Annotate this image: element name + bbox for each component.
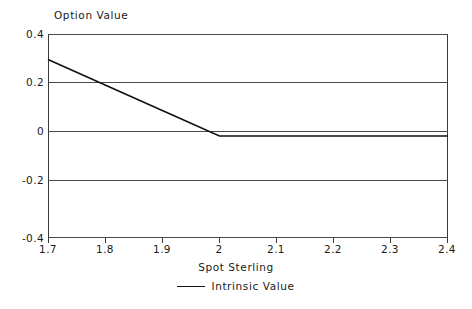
legend-line-swatch-icon	[177, 286, 205, 287]
y-tick-label: 0.4	[26, 28, 44, 40]
x-tick-label: 1.7	[39, 243, 57, 255]
y-tick-label: 0	[37, 125, 44, 137]
chart-legend: Intrinsic Value	[0, 280, 472, 292]
x-tick-label: 2.4	[438, 243, 456, 255]
legend-item-intrinsic-value: Intrinsic Value	[177, 280, 294, 292]
y-tick-label: -0.2	[22, 174, 44, 186]
x-tick-label: 2.2	[324, 243, 342, 255]
x-axis-title: Spot Sterling	[0, 261, 472, 273]
chart-figure: Option Value 0.4 0.2 0 -0.2 -0.4 1.7 1.8…	[0, 0, 472, 309]
x-tick-label: 2	[215, 243, 222, 255]
x-tick-label: 2.1	[267, 243, 285, 255]
x-tick-label: 1.9	[153, 243, 171, 255]
y-tick-label: 0.2	[26, 76, 44, 88]
legend-item-label: Intrinsic Value	[211, 280, 294, 292]
x-tick-label: 2.3	[381, 243, 399, 255]
x-tick-label: 1.8	[96, 243, 114, 255]
